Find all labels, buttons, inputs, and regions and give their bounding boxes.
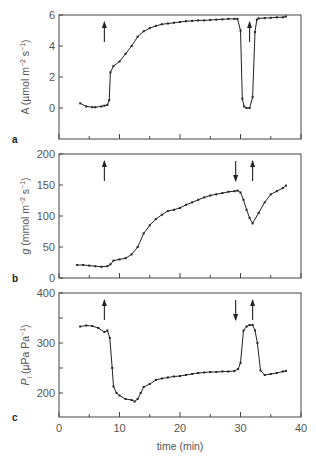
data-point: [173, 376, 175, 378]
data-point: [85, 105, 87, 107]
data-point: [203, 196, 205, 198]
data-point: [82, 264, 84, 266]
data-point: [236, 18, 238, 20]
data-point: [131, 253, 133, 255]
data-point: [125, 398, 127, 400]
data-point: [215, 193, 217, 195]
data-point: [241, 98, 243, 100]
data-point: [285, 370, 287, 372]
data-point: [197, 199, 199, 201]
plot-frame: [59, 293, 301, 417]
y-tick-label: 100: [37, 210, 55, 222]
y-tick-label: 4: [49, 40, 55, 52]
data-point: [258, 17, 260, 19]
data-point: [112, 386, 114, 388]
data-line: [80, 17, 286, 109]
data-point: [270, 17, 272, 19]
y-tick-label: 400: [37, 287, 55, 299]
x-tick-label: 10: [113, 422, 125, 434]
arrow-up-icon: [102, 21, 107, 42]
data-point: [282, 187, 284, 189]
data-point: [249, 217, 251, 219]
data-point: [112, 65, 114, 67]
data-point: [125, 257, 127, 259]
data-point: [149, 383, 151, 385]
data-point: [191, 373, 193, 375]
data-point: [264, 374, 266, 376]
data-point: [108, 99, 110, 101]
data-point: [94, 106, 96, 108]
data-point: [103, 105, 105, 107]
data-point: [125, 53, 127, 55]
data-point: [249, 107, 251, 109]
arrow-up-icon: [102, 299, 107, 320]
data-point: [161, 23, 163, 25]
data-point: [240, 362, 242, 364]
data-point: [233, 190, 235, 192]
data-point: [185, 374, 187, 376]
data-point: [119, 395, 121, 397]
data-point: [252, 222, 254, 224]
data-point: [167, 210, 169, 212]
data-point: [161, 378, 163, 380]
data-point: [221, 18, 223, 20]
data-point: [264, 17, 266, 19]
data-point: [137, 36, 139, 38]
data-point: [109, 263, 111, 265]
data-point: [94, 265, 96, 267]
data-point: [179, 207, 181, 209]
data-point: [282, 371, 284, 373]
data-point: [140, 392, 142, 394]
data-point: [91, 106, 93, 108]
arrow-up-icon: [247, 21, 252, 42]
data-point: [106, 265, 108, 267]
data-point: [246, 209, 248, 211]
data-point: [256, 342, 258, 344]
x-tick-label: 20: [174, 422, 186, 434]
data-point: [246, 326, 248, 328]
data-point: [270, 193, 272, 195]
data-point: [270, 373, 272, 375]
data-point: [103, 331, 105, 333]
figure: 0246aA (µmol m−2 s−1)050100150200bg (mmo…: [0, 0, 316, 466]
data-point: [254, 31, 256, 33]
y-tick-label: 150: [37, 179, 55, 191]
data-point: [254, 330, 256, 332]
data-point: [149, 224, 151, 226]
data-point: [109, 71, 111, 73]
y-axis-title: g (mmol m−2 s−1): [19, 177, 31, 254]
data-point: [282, 16, 284, 18]
data-point: [285, 16, 287, 18]
data-point: [79, 326, 81, 328]
data-line: [77, 186, 286, 267]
data-point: [209, 195, 211, 197]
data-point: [258, 212, 260, 214]
data-point: [252, 324, 254, 326]
y-axis-title: Pi (µPa Pa−1): [19, 324, 33, 385]
data-point: [191, 201, 193, 203]
data-point: [115, 392, 117, 394]
data-point: [119, 61, 121, 63]
data-point: [237, 368, 239, 370]
data-point: [203, 19, 205, 21]
data-point: [143, 232, 145, 234]
y-tick-label: 200: [37, 148, 55, 160]
panel-c: 200300400010203040cPi (µPa Pa−1)time (mi…: [12, 287, 307, 452]
data-point: [119, 258, 121, 260]
data-point: [246, 107, 248, 109]
data-point: [155, 379, 157, 381]
x-tick-label: 40: [295, 422, 307, 434]
y-tick-label: 0: [49, 102, 55, 114]
arrow-down-icon: [233, 161, 238, 182]
data-point: [91, 325, 93, 327]
data-point: [215, 371, 217, 373]
data-point: [285, 185, 287, 187]
plot-frame: [59, 15, 301, 139]
data-point: [134, 401, 136, 403]
data-point: [243, 105, 245, 107]
data-point: [276, 190, 278, 192]
data-point: [227, 191, 229, 193]
data-point: [264, 201, 266, 203]
data-point: [137, 246, 139, 248]
plot-frame: [59, 154, 301, 278]
